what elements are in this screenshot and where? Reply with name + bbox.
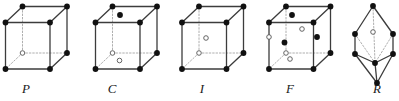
- cube-vertex-front-bottom-left: [3, 66, 9, 72]
- cube-vertex-back-top-right: [154, 4, 160, 10]
- rhomb-vertex-front-middle: [372, 60, 378, 66]
- rhomb-edge-top-left: [355, 6, 373, 34]
- cube-edge-depth-bottom-right: [140, 53, 157, 69]
- rhomb-vertex-lower-left: [352, 51, 358, 57]
- cell-label-f: F: [285, 81, 295, 96]
- lattice-diagram: PCIFR: [0, 0, 399, 101]
- cube-vertex-front-bottom-left: [179, 66, 185, 72]
- cube-edge-depth-top-right: [50, 7, 67, 23]
- cube-vertex-front-bottom-right: [137, 66, 143, 72]
- cube-edge-depth-bottom-right: [227, 53, 244, 69]
- lattice-point-bottom-face-center: [117, 58, 122, 63]
- cube-vertex-back-top-right: [241, 4, 247, 10]
- rhomb-vertex-top-apex: [370, 3, 376, 9]
- cube-vertex-front-bottom-right: [224, 66, 230, 72]
- cube-edge-hidden-depth: [96, 53, 113, 69]
- rhomb-vertex-lower-right: [390, 51, 396, 57]
- cube-vertex-back-bottom-right: [328, 50, 334, 56]
- lattice-point-back-face-center: [300, 27, 305, 32]
- cube-edge-depth-top-left: [6, 7, 23, 23]
- cube-vertex-front-bottom-right: [311, 66, 317, 72]
- cube-vertex-front-top-right: [311, 20, 317, 26]
- cube-vertex-front-bottom-right: [47, 66, 53, 72]
- cube-vertex-front-top-right: [224, 20, 230, 26]
- rhomb-vertex-body-center: [371, 30, 376, 35]
- cube-vertex-back-top-left: [110, 4, 116, 10]
- cell-r: R: [352, 3, 396, 96]
- cell-p: P: [3, 4, 70, 96]
- cube-vertex-back-bottom-right: [241, 50, 247, 56]
- cell-label-p: P: [21, 81, 30, 96]
- cube-vertex-front-top-right: [47, 20, 53, 26]
- cube-vertex-front-bottom-left: [93, 66, 99, 72]
- cube-edge-depth-top-left: [182, 7, 199, 23]
- cell-f: F: [266, 4, 333, 96]
- cube-vertex-back-bottom-right: [154, 50, 160, 56]
- cube-vertex-front-top-left: [3, 20, 9, 26]
- cube-vertex-back-top-right: [328, 4, 334, 10]
- lattice-point-right-face-center: [314, 34, 320, 40]
- cube-vertex-front-top-left: [266, 20, 272, 26]
- cube-vertex-front-top-left: [179, 20, 185, 26]
- cube-edge-depth-top-left: [269, 7, 286, 23]
- cube-edge-hidden-depth: [269, 53, 286, 69]
- lattice-point-top-face-center: [117, 12, 123, 18]
- cube-vertex-back-top-left: [196, 4, 202, 10]
- cube-vertex-back-bottom-left: [20, 51, 25, 56]
- cube-edge-depth-bottom-right: [314, 53, 331, 69]
- lattice-point-body-center: [204, 36, 209, 41]
- cube-vertex-front-bottom-left: [266, 66, 272, 72]
- cube-edge-depth-top-right: [314, 7, 331, 23]
- cube-vertex-back-top-left: [20, 4, 26, 10]
- rhomb-vertex-upper-right: [390, 31, 396, 37]
- cell-i: I: [179, 4, 246, 96]
- cube-vertex-back-top-right: [64, 4, 70, 10]
- cube-edge-depth-top-right: [140, 7, 157, 23]
- lattice-point-front-face-center: [282, 40, 288, 46]
- cube-edge-hidden-depth: [6, 53, 23, 69]
- cube-edge-depth-bottom-right: [50, 53, 67, 69]
- cube-vertex-back-bottom-left: [110, 51, 115, 56]
- cell-c: C: [93, 4, 160, 96]
- cube-edge-depth-top-left: [96, 7, 113, 23]
- lattice-point-left-face-center: [267, 35, 272, 40]
- cube-vertex-back-bottom-left: [284, 51, 289, 56]
- cube-vertex-back-top-left: [283, 4, 289, 10]
- cube-vertex-front-top-right: [137, 20, 143, 26]
- cell-label-r: R: [372, 81, 381, 96]
- cube-vertex-front-top-left: [93, 20, 99, 26]
- cube-vertex-back-bottom-left: [197, 51, 202, 56]
- cube-vertex-back-bottom-right: [64, 50, 70, 56]
- rhomb-vertex-upper-left: [352, 31, 358, 37]
- lattice-point-bottom-face-center: [288, 57, 293, 62]
- cube-edge-depth-top-right: [227, 7, 244, 23]
- lattice-point-top-face-center: [289, 12, 295, 18]
- bravais-lattice-figure: PCIFR: [0, 0, 399, 101]
- rhomb-edge-top-right: [373, 6, 393, 34]
- cell-label-i: I: [199, 81, 205, 96]
- cube-edge-hidden-depth: [182, 53, 199, 69]
- cell-label-c: C: [108, 81, 117, 96]
